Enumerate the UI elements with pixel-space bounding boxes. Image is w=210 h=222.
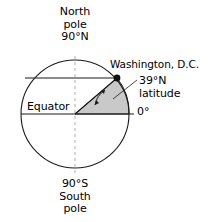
latitude-value-line2: latitude <box>139 87 180 100</box>
north-pole-label-line1: North <box>0 6 150 19</box>
washington-dc-marker-dot <box>114 75 121 82</box>
zero-degrees-label: 0° <box>137 106 149 119</box>
latitude-diagram: North pole 90°N Equator Washington, D.C.… <box>0 0 210 222</box>
angle-wedge <box>75 78 129 114</box>
south-pole-label-line3: pole <box>0 203 150 216</box>
washington-dc-label: Washington, D.C. <box>110 58 199 71</box>
equator-label: Equator <box>27 101 70 114</box>
latitude-value-line1: 39°N <box>139 74 180 87</box>
latitude-value-label: 39°N latitude <box>139 74 180 100</box>
north-pole-label: North pole 90°N <box>0 6 150 44</box>
south-pole-label: 90°S South pole <box>0 178 150 216</box>
south-pole-label-line1: 90°S <box>0 178 150 191</box>
north-pole-label-line3: 90°N <box>0 31 150 44</box>
